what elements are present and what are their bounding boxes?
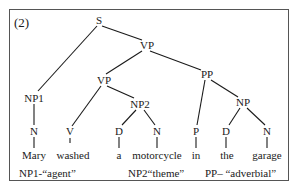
node-d-the: D [222,125,230,137]
node-v: V [66,125,74,137]
word-washed: washed [57,149,90,161]
node-pp: PP [201,68,213,80]
word-motorcycle: motorcycle [132,149,181,161]
node-n-garage: N [263,125,271,137]
node-p: P [193,125,199,137]
node-d-a: D [115,125,123,137]
node-n-mary: N [30,125,38,137]
role-theme: NP2“theme” [128,167,184,179]
node-np1: NP1 [24,92,44,104]
node-vp-lower: VP [97,74,111,86]
word-the: the [220,149,233,161]
word-in: in [192,149,201,161]
role-adverbial: PP– “adverbial” [205,167,276,179]
node-n-motorcycle: N [153,125,161,137]
node-vp-top: VP [140,39,154,51]
word-mary: Mary [22,149,46,161]
node-s: S [96,14,102,26]
node-np2: NP2 [130,98,150,110]
tree-branches [0,0,298,191]
node-np: NP [236,96,250,108]
word-a: a [117,149,122,161]
role-agent: NP1-“agent” [19,167,76,179]
example-number: (2) [14,16,29,30]
word-garage: garage [252,149,281,161]
